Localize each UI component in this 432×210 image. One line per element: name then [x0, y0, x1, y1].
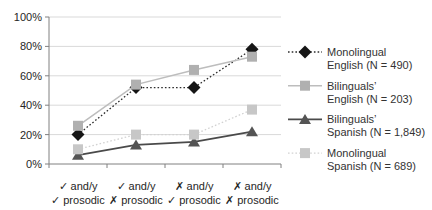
- x-category-label: ✓ prosodic: [51, 194, 105, 206]
- x-category-label: ✓ and/y: [59, 180, 98, 192]
- chart-svg: 0%20%40%60%80%100%✓ and/y✓ prosodic✓ and…: [0, 0, 432, 210]
- data-point-monolingual-spanish: [189, 130, 199, 140]
- legend-label-monolingual-spanish: Spanish (N = 689): [327, 160, 416, 172]
- x-category-label: ✗ prosodic: [225, 194, 279, 206]
- data-point-bilinguals-english: [73, 121, 83, 131]
- data-point-monolingual-spanish: [73, 144, 83, 154]
- x-category-label: ✓ prosodic: [167, 194, 221, 206]
- data-point-bilinguals-english: [131, 80, 141, 90]
- y-tick-label: 40%: [20, 99, 42, 111]
- legend-marker-monolingual-spanish: [300, 148, 310, 158]
- data-point-bilinguals-spanish: [246, 126, 258, 136]
- legend-marker-monolingual-english: [299, 46, 312, 59]
- y-tick-label: 100%: [14, 11, 42, 23]
- legend-label-monolingual-spanish: Monolingual: [327, 147, 386, 159]
- y-tick-label: 20%: [20, 129, 42, 141]
- chart-figure: 0%20%40%60%80%100%✓ and/y✓ prosodic✓ and…: [0, 0, 432, 210]
- legend-marker-bilinguals-english: [300, 81, 310, 91]
- y-tick-label: 0%: [26, 158, 42, 170]
- data-point-monolingual-spanish: [131, 130, 141, 140]
- legend-label-bilinguals-english: English (N = 203): [327, 93, 412, 105]
- legend-label-monolingual-english: English (N = 490): [327, 59, 412, 71]
- legend-label-bilinguals-spanish: Bilinguals’: [327, 113, 377, 125]
- data-point-monolingual-english: [188, 81, 201, 94]
- y-tick-label: 80%: [20, 40, 42, 52]
- x-category-label: ✗ and/y: [233, 180, 272, 192]
- data-point-monolingual-spanish: [247, 105, 257, 115]
- data-point-bilinguals-english: [247, 52, 257, 62]
- y-tick-label: 60%: [20, 70, 42, 82]
- x-category-label: ✗ and/y: [175, 180, 214, 192]
- legend-label-bilinguals-english: Bilinguals’: [327, 80, 377, 92]
- legend-label-bilinguals-spanish: Spanish (N = 1,849): [327, 126, 425, 138]
- x-category-label: ✗ prosodic: [109, 194, 163, 206]
- legend-label-monolingual-english: Monolingual: [327, 46, 386, 58]
- data-point-bilinguals-english: [189, 65, 199, 75]
- x-category-label: ✓ and/y: [117, 180, 156, 192]
